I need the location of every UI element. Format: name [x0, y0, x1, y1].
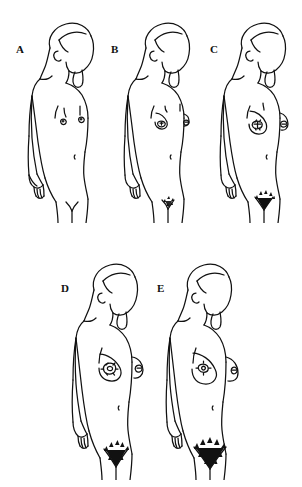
figure-b-drawing: [110, 18, 202, 223]
figure-c-drawing: [206, 18, 298, 223]
figure-panel-e: E: [152, 258, 244, 480]
figure-panel-d: D: [58, 258, 150, 480]
figure-label-e: E: [157, 283, 164, 294]
figure-label-d: D: [61, 283, 69, 294]
figure-e-drawing: [152, 258, 244, 480]
figure-panel-c: C: [206, 18, 298, 223]
caption-remnant: [95, 1, 205, 8]
figure-label-a: A: [16, 44, 24, 55]
figure-d-drawing: [58, 258, 150, 480]
tanner-stage-figure-sheet: A: [0, 0, 302, 487]
figure-panel-a: A: [14, 18, 106, 223]
figure-label-b: B: [111, 44, 118, 55]
figure-a-drawing: [14, 18, 106, 223]
figure-label-c: C: [210, 44, 218, 55]
figure-panel-b: B: [110, 18, 202, 223]
